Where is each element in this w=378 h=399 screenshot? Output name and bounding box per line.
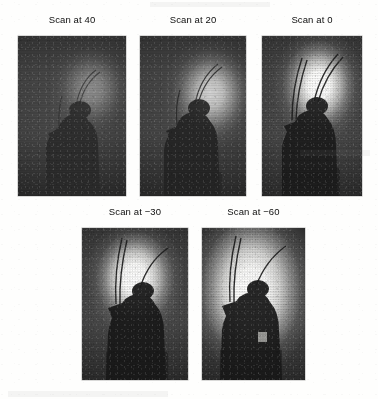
- panel-caption-scan-40: Scan at 40: [18, 14, 126, 25]
- silhouette-subject: [202, 228, 305, 380]
- silhouette-subject: [140, 36, 246, 196]
- panel-caption-scan-0: Scan at 0: [262, 14, 362, 25]
- panel-caption-scan-minus-30: Scan at −30: [82, 206, 188, 217]
- figure-root: Scan at 40 Scan at 20: [0, 0, 378, 399]
- silhouette-subject: [18, 36, 126, 196]
- panel-image-scan-minus-60[interactable]: [202, 228, 305, 380]
- silhouette-subject: [82, 228, 188, 380]
- panel-image-scan-20[interactable]: [140, 36, 246, 196]
- panel-caption-scan-20: Scan at 20: [140, 14, 246, 25]
- scan-corner-artifact: [289, 228, 305, 241]
- scan-smudge-bottom: [8, 391, 168, 397]
- panel-image-scan-40[interactable]: [18, 36, 126, 196]
- panel-image-scan-minus-30[interactable]: [82, 228, 188, 380]
- panel-caption-scan-minus-60: Scan at −60: [202, 206, 305, 217]
- silhouette-subject: [262, 36, 362, 196]
- panel-image-scan-0[interactable]: [262, 36, 362, 196]
- scan-smudge-top: [150, 2, 270, 7]
